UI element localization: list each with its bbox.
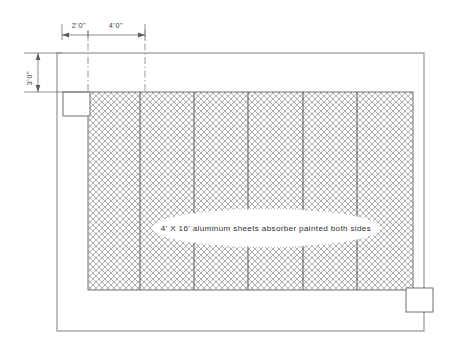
technical-drawing-canvas: 4' X 16' aluminum sheets absorber painte… — [0, 0, 452, 349]
mesh-panel-fill — [88, 92, 413, 290]
drawing-sheet: 4' X 16' aluminum sheets absorber painte… — [0, 0, 452, 349]
dimension-arrow — [62, 33, 69, 38]
horizontal-dimension-chain: 2'0" 4'0" — [62, 21, 145, 40]
dimension-label-bay-module-width: 4'0" — [109, 21, 124, 30]
detail-box-upper-left — [63, 92, 90, 116]
dimension-label-bay-left-offset: 2'0" — [72, 21, 87, 30]
absorber-mesh-panel — [88, 92, 413, 290]
vertical-dimension: 3'0" — [24, 53, 88, 92]
dimension-arrow — [138, 33, 145, 38]
dimension-arrow — [36, 53, 41, 60]
detail-box-lower-right — [406, 288, 433, 312]
dimension-arrow — [36, 85, 41, 92]
callout-label: 4' X 16' aluminum sheets absorber painte… — [161, 224, 371, 233]
dimension-label-top-margin-height: 3'0" — [25, 71, 34, 86]
